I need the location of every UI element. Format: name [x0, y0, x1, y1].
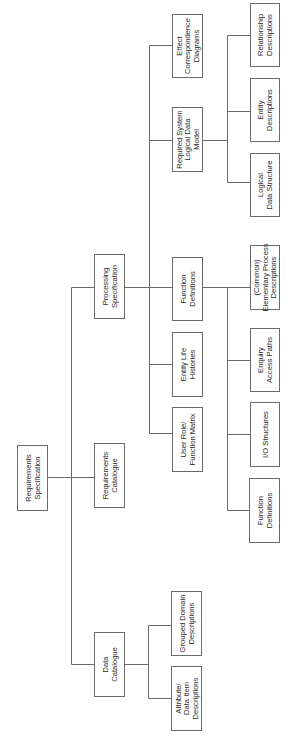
node-epd: (Common)Elementary ProcessDescriptions: [251, 243, 280, 311]
node-label-line: Model: [192, 129, 201, 150]
node-func-defs: FunctionDefinitions: [173, 258, 203, 321]
node-label-line: Specification: [33, 456, 42, 499]
node-label: Entity LifeHistories: [179, 348, 197, 381]
node-enquiry: EnquiryAccess Paths: [251, 329, 280, 392]
node-req-cat: RequirementsCatalogue: [95, 444, 125, 508]
node-attr-desc: Attribute/Data ItemDescriptions: [172, 667, 202, 731]
node-io-struct: I/O Structures: [251, 403, 280, 467]
node-req-spec: RequirementsSpecification: [18, 446, 48, 511]
node-label-line: Access Paths: [265, 337, 274, 383]
node-entity-desc: EntityDescriptions: [251, 79, 280, 142]
node-label-line: Descriptions: [265, 14, 274, 56]
node-label: Attribute/Data ItemDescriptions: [174, 677, 200, 719]
node-label-line: Diagrams: [192, 30, 201, 63]
node-label: I/O Structures: [261, 411, 270, 458]
node-elh: Entity LifeHistories: [173, 333, 203, 397]
node-label-line: Data Structure: [265, 161, 274, 210]
diagram-nodes: RequirementsSpecificationDataCatalogueRe…: [18, 4, 280, 731]
node-label-line: Definitions: [265, 493, 274, 529]
node-label-line: I/O Structures: [261, 411, 270, 458]
node-label: RequirementsCatalogue: [101, 452, 119, 499]
node-user-role: User Role/Function Matrix: [173, 408, 203, 472]
node-label: ProcessingSpecification: [101, 265, 119, 308]
node-label-line: Descriptions: [269, 256, 278, 298]
node-data-cat: DataCatalogue: [95, 633, 125, 697]
node-label-line: Catalogue: [110, 647, 119, 682]
node-label-line: Descriptions: [191, 677, 200, 719]
node-label-line: Specification: [110, 265, 119, 308]
node-label: RelationshipDescriptions: [256, 14, 274, 56]
node-label-line: Definitions: [188, 271, 197, 307]
node-label: FunctionDefinitions: [179, 271, 197, 307]
node-proc-spec: ProcessingSpecification: [95, 255, 125, 319]
node-label-line: Catalogue: [110, 458, 119, 493]
node-lds: LogicalData Structure: [251, 154, 280, 217]
node-label: FunctionDefinitions: [256, 493, 274, 529]
node-ecd: EffectCorrespondenceDiagrams: [173, 15, 203, 78]
connector-lines: [48, 36, 251, 699]
ssadm-requirements-specification-diagram: RequirementsSpecificationDataCatalogueRe…: [0, 0, 302, 748]
node-label-line: Histories: [188, 350, 197, 380]
node-func-defs-2: FunctionDefinitions: [250, 479, 280, 543]
node-label-line: Function Matrix: [188, 413, 197, 465]
node-label-line: Descriptions: [187, 602, 196, 644]
node-label: Grouped DomainDescriptions: [178, 595, 196, 653]
node-rsldm: Required SystemLogical DataModel: [173, 108, 203, 172]
node-label: RequirementsSpecification: [24, 454, 42, 501]
node-rel-desc: RelationshipDescriptions: [251, 4, 280, 67]
node-label-line: Descriptions: [265, 89, 274, 131]
node-grouped-domain: Grouped DomainDescriptions: [172, 592, 202, 656]
